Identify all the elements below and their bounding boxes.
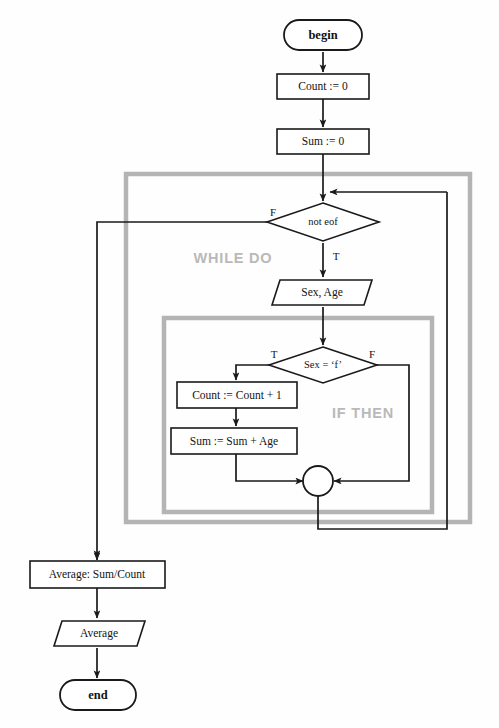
node-begin: begin [284, 20, 362, 50]
branch-label-not-eof-false: F [270, 206, 276, 218]
node-sum-accum: Sum := Sum + Age [171, 428, 297, 454]
group-label-if-then: IF THEN [332, 405, 394, 421]
group-frame-if-then: IF THEN [164, 318, 432, 512]
node-count-incr: Count := Count + 1 [177, 382, 297, 408]
node-read-sex-age-label: Sex, Age [301, 286, 343, 299]
branch-label-sex-false: F [369, 348, 375, 360]
node-count-init: Count := 0 [277, 74, 369, 99]
branch-label-not-eof-true: T [333, 250, 340, 262]
node-not-eof-label: not eof [308, 216, 338, 227]
node-read-sex-age: Sex, Age [272, 280, 372, 305]
node-sum-init-label: Sum := 0 [302, 135, 345, 147]
node-sum-accum-label: Sum := Sum + Age [190, 435, 278, 448]
node-average-calc-label: Average: Sum/Count [49, 568, 146, 581]
node-count-init-label: Count := 0 [298, 80, 348, 92]
node-sex-is-f-label: Sex = ‘f’ [304, 359, 342, 370]
node-end: end [60, 680, 136, 710]
node-merge-connector [303, 466, 333, 496]
node-not-eof: not eof [267, 203, 379, 241]
group-label-while-do: WHILE DO [194, 250, 273, 266]
node-end-label: end [88, 688, 108, 702]
node-average-output-label: Average [80, 627, 118, 640]
edge-sum-accum-to-merge [236, 454, 303, 481]
edge-sex-false-to-merge [334, 365, 409, 481]
node-sum-init: Sum := 0 [277, 129, 369, 154]
node-average-output: Average [54, 621, 145, 646]
node-sex-is-f: Sex = ‘f’ [269, 347, 377, 383]
flowchart-diagram: WHILE DO IF THEN [0, 0, 499, 728]
node-begin-label: begin [308, 28, 337, 42]
branch-label-sex-true: T [271, 348, 278, 360]
node-average-calc: Average: Sum/Count [30, 561, 165, 588]
node-count-incr-label: Count := Count + 1 [192, 389, 282, 401]
